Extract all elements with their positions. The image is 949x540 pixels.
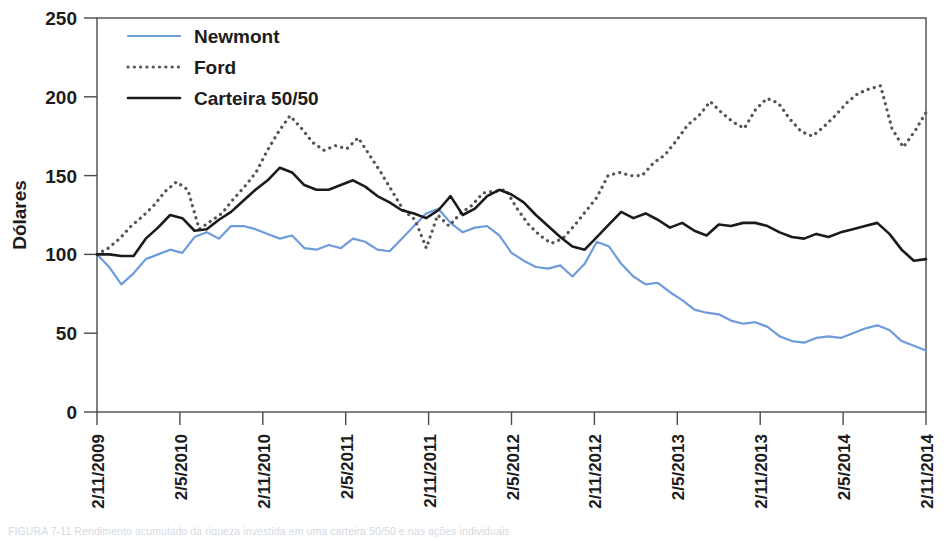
y-axis-tick-label: 150 — [45, 166, 77, 187]
x-axis-tick-label: 2/11/2009 — [89, 434, 108, 509]
x-axis-tick-label: 2/11/2011 — [421, 434, 440, 508]
y-axis-tick-label: 100 — [45, 244, 77, 265]
y-axis-tick-label: 50 — [56, 323, 77, 344]
legend-label-ford: Ford — [194, 57, 236, 78]
x-axis-tick-label: 2/11/2010 — [255, 434, 274, 509]
legend-label-newmont: Newmont — [194, 26, 280, 47]
y-axis-tick-label: 0 — [66, 402, 77, 423]
x-axis-tick-label: 2/5/2011 — [338, 434, 357, 499]
figure-caption: FIGURA 7-11 Rendimento acumulado da riqu… — [0, 525, 949, 538]
x-axis-tick-label: 2/11/2014 — [918, 433, 937, 508]
figure-root: 050100150200250 2/11/20092/5/20102/11/20… — [0, 0, 949, 540]
x-axis-tick-label: 2/5/2012 — [504, 434, 523, 500]
y-axis-title: Dólares — [9, 180, 30, 250]
y-axis: 050100150200250 — [45, 8, 97, 423]
x-axis-tick-label: 2/11/2013 — [752, 434, 771, 509]
x-axis-tick-label: 2/5/2014 — [835, 433, 854, 500]
y-axis-tick-label: 200 — [45, 87, 77, 108]
x-axis-tick-label: 2/5/2010 — [172, 434, 191, 500]
line-chart: 050100150200250 2/11/20092/5/20102/11/20… — [0, 0, 949, 540]
x-axis-tick-label: 2/5/2013 — [669, 434, 688, 500]
x-axis-tick-label: 2/11/2012 — [586, 434, 605, 509]
figure-caption-band: FIGURA 7-11 Rendimento acumulado da riqu… — [0, 525, 949, 540]
x-axis: 2/11/20092/5/20102/11/20102/5/20112/11/2… — [89, 412, 937, 509]
legend-label-carteira-50-50: Carteira 50/50 — [194, 88, 319, 109]
y-axis-tick-label: 250 — [45, 8, 77, 29]
